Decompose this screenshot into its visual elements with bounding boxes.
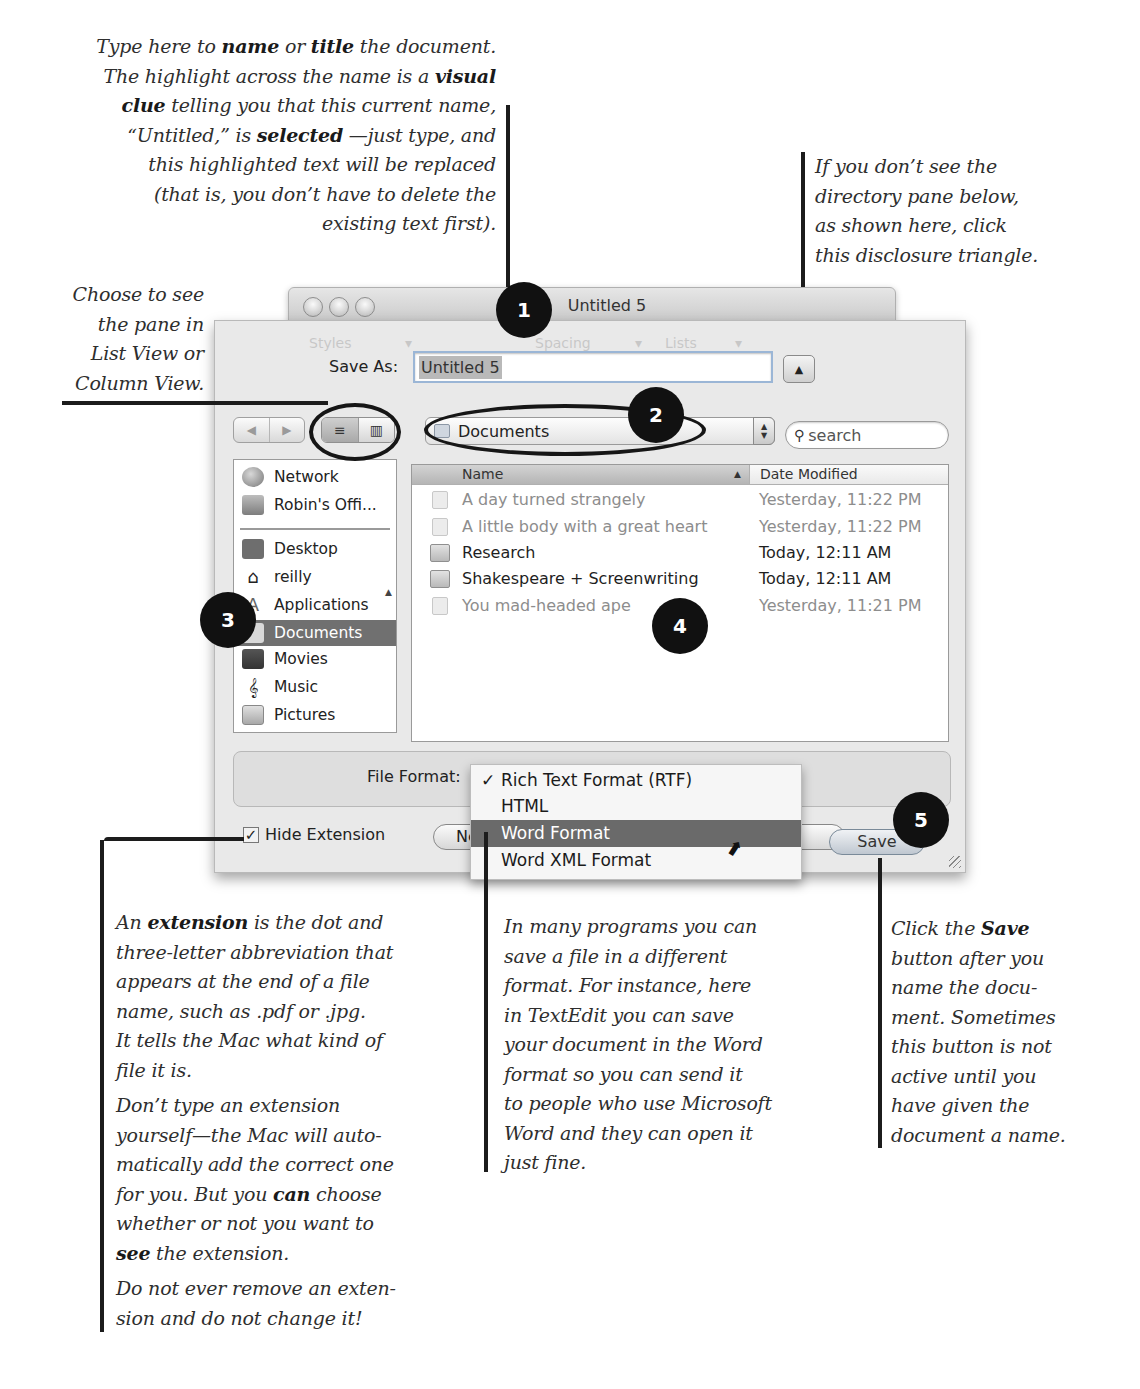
callout-save: Click the Save button after you name the… [891,914,1136,1150]
file-name: A day turned strangely [462,490,646,509]
file-name: Research [462,543,535,562]
badge-2: 2 [628,387,684,443]
ghost-arrow: ▾ [405,335,412,351]
file-format-menu: ✓ Rich Text Format (RTF) HTML Word Forma… [470,764,802,880]
save-as-input[interactable]: Untitled 5 [413,351,773,383]
sidebar-item-label: Robin's Offi... [274,496,377,514]
file-name: Shakespeare + Screenwriting [462,569,699,588]
sidebar-item-label: Pictures [274,706,335,724]
file-date: Yesterday, 11:21 PM [759,596,922,615]
document-icon [432,518,448,536]
search-field[interactable]: ⚲ search [785,421,949,449]
checkmark-icon: ✓ [481,767,495,794]
file-name: A little body with a great heart [462,517,707,536]
badge-5: 5 [893,792,949,848]
sidebar-item-movies[interactable]: Movies [234,646,396,672]
sidebar-item-documents[interactable]: Documents [234,620,396,646]
file-name: You mad-headed ape [462,596,631,615]
checkbox-checked-icon: ✓ [243,827,259,843]
menu-item-label: Word XML Format [501,850,651,870]
sidebar-item-applications[interactable]: A Applications [234,592,396,618]
column-name-label: Name [462,466,503,482]
sidebar-item-label: reilly [274,568,312,586]
folder-icon [430,544,450,562]
hide-extension-checkbox[interactable]: ✓ Hide Extension [243,825,385,844]
leader-line-extension-h [104,837,244,841]
sidebar-item-reilly[interactable]: ⌂ reilly [234,564,396,590]
back-arrow-icon: ◀ [247,423,256,437]
menu-item-label: Word Format [501,823,610,843]
menu-item-rtf[interactable]: ✓ Rich Text Format (RTF) [471,767,801,794]
popup-arrows-icon: ▲▼ [753,417,775,445]
file-date: Yesterday, 11:22 PM [759,490,922,509]
badge-1: 1 [496,282,552,338]
window-title: Untitled 5 [289,296,895,315]
file-list-header: Name ▲ Date Modified [412,465,948,485]
ghost-arrow: ▾ [735,335,742,351]
column-header-name[interactable]: Name ▲ [412,465,749,484]
file-date: Today, 12:11 AM [759,569,891,588]
search-icon: ⚲ [794,427,804,443]
menu-item-label: HTML [501,796,548,816]
callout-disclosure: If you don’t see the directory pane belo… [815,152,1135,270]
highlight-ring-view-buttons [309,403,401,461]
sidebar-item-label: Desktop [274,540,338,558]
sidebar-item-label: Movies [274,650,328,668]
sidebar: Network Robin's Offi... Desktop ⌂ reilly… [233,459,397,733]
sidebar-item-network[interactable]: Network [234,464,396,490]
document-icon [432,597,448,615]
callout-format: In many programs you can save a file in … [504,912,834,1178]
leader-line-format [484,832,488,1172]
file-row[interactable]: A day turned strangely Yesterday, 11:22 … [412,487,948,513]
save-button-label: Save [857,832,896,851]
save-as-label: Save As: [329,357,398,376]
leader-line-save [878,858,882,1148]
pictures-icon [242,705,264,725]
search-placeholder: search [808,426,861,445]
folder-icon [430,570,450,588]
leader-line-view [62,401,328,405]
leader-line-extension [100,840,104,1332]
sidebar-item-label: Documents [274,624,362,642]
forward-button[interactable]: ▶ [269,418,305,442]
disclosure-triangle-button[interactable]: ▲ [783,355,815,383]
folder-row[interactable]: Research Today, 12:11 AM [412,540,948,566]
home-icon: ⌂ [242,567,264,587]
callout-extension: An extension is the dot and three-letter… [116,908,456,1333]
callout-name-title: Type here to name or title the document.… [40,32,496,239]
desktop-icon [242,539,264,559]
sidebar-item-music[interactable]: 𝄞 Music [234,674,396,700]
document-icon [432,491,448,509]
column-header-date[interactable]: Date Modified [749,465,948,484]
file-date: Today, 12:11 AM [759,543,891,562]
menu-item-word-xml[interactable]: Word XML Format [471,847,801,874]
ghost-lists: Lists [665,335,697,351]
folder-row[interactable]: Shakespeare + Screenwriting Today, 12:11… [412,566,948,592]
menu-item-word-format[interactable]: Word Format [471,820,801,847]
sidebar-item-label: Music [274,678,318,696]
badge-3: 3 [200,592,256,648]
triangle-up-icon: ▲ [795,363,803,376]
music-icon: 𝄞 [242,677,264,697]
file-row[interactable]: A little body with a great heart Yesterd… [412,514,948,540]
sidebar-item-label: Network [274,468,339,486]
callout-view: Choose to see the pane in List View or C… [20,280,204,398]
sidebar-item-desktop[interactable]: Desktop [234,536,396,562]
back-button[interactable]: ◀ [234,418,269,442]
network-icon [242,467,264,487]
resize-grip-icon[interactable] [949,856,961,868]
disk-icon [242,495,264,515]
menu-item-html[interactable]: HTML [471,793,801,820]
sidebar-item-pictures[interactable]: Pictures [234,702,396,728]
file-date: Yesterday, 11:22 PM [759,517,922,536]
hide-extension-label: Hide Extension [265,825,385,844]
save-as-selected-text: Untitled 5 [419,356,502,379]
sidebar-scroll-up-icon[interactable]: ▲ [385,587,392,597]
file-format-label: File Format: [367,767,461,786]
ghost-styles: Styles [309,335,351,351]
ghost-spacing: Spacing [535,335,591,351]
badge-4: 4 [652,598,708,654]
sidebar-item-robins-office[interactable]: Robin's Offi... [234,492,396,518]
back-forward-buttons: ◀ ▶ [233,417,305,443]
forward-arrow-icon: ▶ [282,423,291,437]
